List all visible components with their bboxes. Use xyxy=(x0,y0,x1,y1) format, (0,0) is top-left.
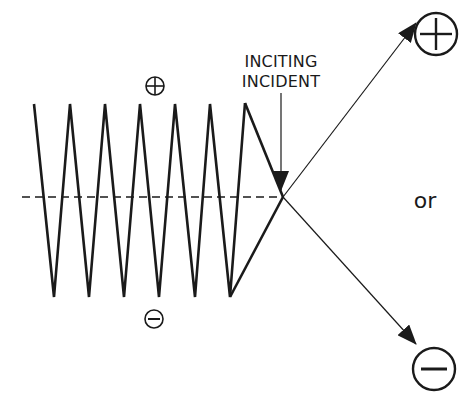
story-value-diagram: INCITING INCIDENT or xyxy=(0,0,474,408)
or-label: or xyxy=(414,188,437,213)
small-minus-circle-icon xyxy=(145,310,163,328)
converge-bottom-line xyxy=(230,197,283,297)
large-minus-circle-icon xyxy=(413,348,455,390)
oscillation-zigzag xyxy=(34,103,245,297)
negative-outcome-arrow xyxy=(283,197,416,344)
large-plus-circle-icon xyxy=(415,13,457,55)
small-plus-circle-icon xyxy=(146,77,164,95)
inciting-label-line2: INCIDENT xyxy=(242,72,320,91)
converge-top-line xyxy=(245,103,283,197)
positive-outcome-arrow xyxy=(283,23,416,197)
inciting-label-line1: INCITING xyxy=(244,52,317,71)
